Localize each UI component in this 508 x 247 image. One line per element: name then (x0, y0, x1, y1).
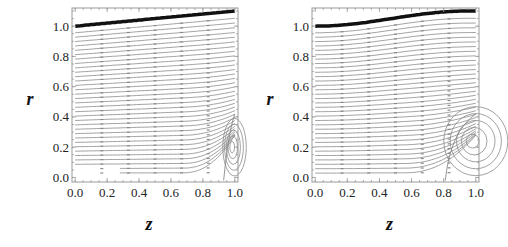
x-axis-label: z (385, 214, 393, 234)
y-tick-label: 0.4 (293, 109, 310, 124)
x-tick-label: 0.8 (195, 185, 211, 200)
x-tick-label: 0.2 (339, 185, 355, 200)
x-tick-label: 0.4 (131, 185, 148, 200)
y-tick-label: 0.0 (293, 170, 309, 185)
y-axis-label: r (266, 89, 274, 109)
x-axis-label: z (144, 214, 152, 234)
x-tick-label: 0.2 (99, 185, 115, 200)
upper-wall (75, 11, 235, 26)
x-tick-label: 1.0 (227, 185, 243, 200)
streamline-figure: 0.00.20.40.60.81.00.00.20.40.60.81.0zr 0… (0, 0, 508, 247)
streamline (315, 87, 476, 99)
x-tick-label: 0.0 (67, 185, 83, 200)
x-tick-label: 0.6 (163, 185, 180, 200)
y-tick-label: 0.8 (53, 49, 69, 64)
y-axis-label: r (26, 89, 34, 109)
x-tick-label: 0.6 (403, 185, 420, 200)
y-tick-label: 0.0 (53, 170, 69, 185)
y-tick-label: 0.2 (53, 140, 69, 155)
y-tick-label: 0.6 (293, 79, 310, 94)
streamline (315, 103, 476, 116)
y-tick-label: 1.0 (293, 19, 309, 34)
recirculation-loop (230, 141, 235, 152)
x-tick-label: 0.8 (436, 185, 452, 200)
y-tick-label: 0.6 (53, 79, 70, 94)
left-panel: 0.00.20.40.60.81.00.00.20.40.60.81.0zr (26, 8, 246, 234)
streamlines (75, 18, 235, 173)
streamline (315, 91, 476, 103)
streamline (315, 83, 476, 95)
x-tick-label: 0.0 (307, 185, 323, 200)
separation-line (445, 114, 476, 181)
y-tick-label: 0.8 (293, 49, 309, 64)
y-tick-label: 0.4 (53, 109, 70, 124)
streamline (75, 99, 235, 111)
streamline (315, 95, 476, 107)
x-tick-label: 1.0 (468, 185, 484, 200)
right-panel: 0.00.20.40.60.81.00.00.20.40.60.81.0zr (266, 8, 507, 234)
y-tick-label: 1.0 (53, 19, 69, 34)
streamline (75, 103, 235, 116)
x-tick-label: 0.4 (371, 185, 388, 200)
y-tick-label: 0.2 (293, 140, 309, 155)
streamline (315, 99, 476, 111)
